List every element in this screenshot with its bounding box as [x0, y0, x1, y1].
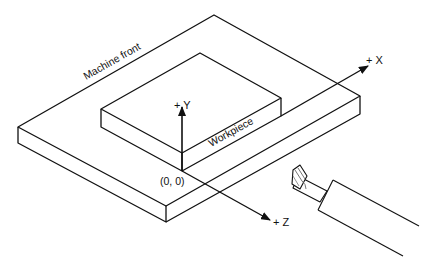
axis-z-label: + Z	[273, 216, 289, 228]
cutting-tool-icon	[292, 165, 419, 256]
z-axis-arrow	[182, 171, 270, 220]
origin-label: (0, 0)	[160, 175, 185, 187]
coordinate-system-diagram: Machine front Workpiece (0, 0) + X + Y +…	[0, 0, 430, 270]
axis-y-label: + Y	[174, 99, 191, 111]
axis-x-label: + X	[366, 54, 383, 66]
